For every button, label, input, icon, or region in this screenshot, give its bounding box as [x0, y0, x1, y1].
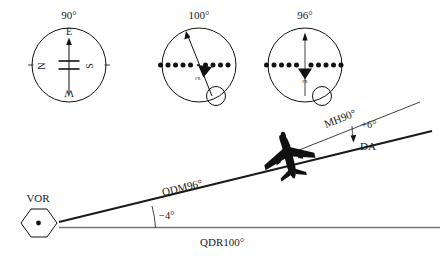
station-angle-label: −4°	[159, 210, 174, 221]
compass-3-flag-label: FR	[302, 79, 308, 84]
compass-3-heading-label: 96°	[297, 9, 312, 21]
drift-angle-arrowhead	[351, 135, 357, 142]
compass-3-obs-knob[interactable]	[313, 87, 332, 106]
compass-1-cardinal-right: S	[84, 63, 95, 69]
compass-2-needle-arrowhead	[184, 31, 190, 40]
vor-station-symbol	[21, 209, 57, 237]
compass-3-needle-arrowhead	[302, 33, 307, 41]
compass-rose-3: FR 96°	[264, 9, 344, 106]
aircraft-tailplane-right	[295, 166, 307, 178]
aircraft-symbol	[258, 126, 320, 185]
compass-rose-1: 90° E N S W	[28, 9, 110, 102]
compass-3-cdi-dots	[264, 63, 344, 68]
qdm-track-label: QDM96°	[161, 177, 204, 198]
drift-angle-label: DA	[360, 140, 376, 152]
vor-center-dot	[36, 221, 41, 226]
vor-station-label: VOR	[26, 192, 50, 204]
compass-1-cardinal-top: E	[66, 26, 72, 37]
compass-1-heading-label: 90°	[61, 9, 76, 21]
compass-1-cardinal-left: N	[36, 62, 47, 69]
compass-2-cdi-dots	[158, 63, 231, 68]
compass-rose-2: FR 100°	[158, 9, 236, 106]
compass-2-flag-label: FR	[195, 76, 201, 81]
compass-1-needle-arrowhead	[66, 38, 72, 46]
qdr-track-label: QDR100°	[200, 236, 244, 248]
compass-1-cardinal-bottom: W	[64, 88, 74, 99]
qdm-radial-line	[59, 131, 432, 222]
compass-2-heading-label: 100°	[189, 9, 210, 21]
vor-navigation-diagram: 90° E N S W	[0, 0, 445, 265]
compass-3-to-from-flag	[298, 69, 312, 80]
diagram-canvas: 90° E N S W	[0, 0, 445, 265]
station-angle-arc	[152, 206, 156, 228]
drift-angle-value: +6°	[361, 119, 376, 130]
